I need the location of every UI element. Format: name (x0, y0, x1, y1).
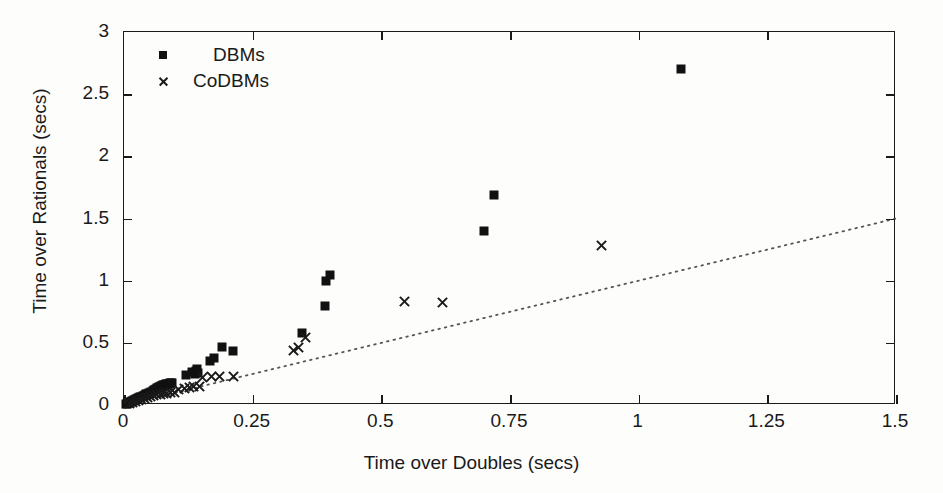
y-tick-label: 0.5 (83, 331, 109, 353)
data-point-dbms (480, 226, 489, 235)
x-tick-label: 1.25 (748, 410, 785, 432)
y-tick-right (886, 94, 895, 96)
x-tick-top (510, 31, 512, 40)
y-tick (123, 281, 132, 283)
x-tick-label: 0.25 (233, 410, 270, 432)
data-point-codbms (213, 370, 226, 383)
x-tick (896, 395, 898, 404)
x-tick (381, 395, 383, 404)
y-tick-right (886, 219, 895, 221)
x-tick-label: 0 (118, 410, 129, 432)
scatter-plot-figure: Time over Rationals (secs) Time over Dou… (0, 0, 943, 493)
data-point-dbms (320, 301, 329, 310)
x-tick-top (767, 31, 769, 40)
y-axis-label: Time over Rationals (secs) (29, 11, 51, 391)
data-point-dbms (489, 190, 498, 199)
y-tick-label: 2.5 (83, 82, 109, 104)
x-tick-label: 0.75 (491, 410, 528, 432)
data-point-codbms (595, 239, 608, 252)
x-tick (124, 395, 126, 404)
data-point-dbms (217, 342, 226, 351)
y-tick (123, 219, 132, 221)
y-tick-label: 3 (98, 20, 109, 42)
y-tick-label: 0 (98, 393, 109, 415)
legend-label-codbms: CoDBMs (193, 70, 269, 92)
data-point-codbms (299, 331, 312, 344)
x-tick-top (639, 31, 641, 40)
square-marker-icon (155, 46, 179, 64)
x-tick (253, 395, 255, 404)
y-tick-right (886, 156, 895, 158)
legend-item-codbms: CoDBMs (155, 68, 269, 94)
y-tick-label: 2 (98, 144, 109, 166)
x-tick (639, 395, 641, 404)
x-axis-label: Time over Doubles (secs) (0, 452, 943, 474)
legend-item-dbms: DBMs (155, 42, 269, 68)
data-point-codbms (227, 370, 240, 383)
x-tick-top (381, 31, 383, 40)
y-tick-label: 1 (98, 269, 109, 291)
legend: DBMs CoDBMs (155, 42, 269, 94)
y-tick-right (886, 281, 895, 283)
x-tick-label: 1.5 (882, 410, 908, 432)
x-tick-top (253, 31, 255, 40)
data-point-dbms (210, 354, 219, 363)
x-tick (767, 395, 769, 404)
x-tick-label: 0.5 (367, 410, 393, 432)
data-point-dbms (325, 271, 334, 280)
y-tick (123, 94, 132, 96)
x-tick-label: 1 (632, 410, 643, 432)
x-tick (510, 395, 512, 404)
y-tick-label: 1.5 (83, 207, 109, 229)
data-point-codbms (398, 295, 411, 308)
data-point-codbms (436, 296, 449, 309)
legend-label-dbms: DBMs (213, 44, 265, 66)
data-point-dbms (676, 65, 685, 74)
y-tick (123, 343, 132, 345)
y-tick-right (886, 343, 895, 345)
data-point-dbms (229, 347, 238, 356)
y-tick (123, 156, 132, 158)
x-marker-icon (155, 72, 179, 90)
